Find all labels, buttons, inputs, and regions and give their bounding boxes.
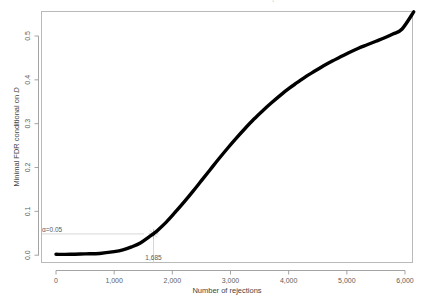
y-axis-title: Minimal FDR conditional on D [12,87,21,187]
x-tick-label: 0 [54,277,58,284]
alpha-guide-group [42,229,159,263]
y-tick-label: 0.4 [24,75,31,85]
y-axis-title-plain: Minimal FDR conditional on [12,93,21,187]
fdr-curve [56,12,414,254]
y-axis-ticks: 0.00.10.20.30.40.5 [24,31,39,260]
x-tick-label: 4,000 [280,277,298,284]
alpha-annotation-label: α=0.05 [42,226,63,233]
x-tick-label: 2,000 [164,277,182,284]
y-axis: 0.00.10.20.30.40.5 [24,31,39,260]
x-tick-label: 3,000 [222,277,240,284]
x-tick-label: 6,000 [396,277,414,284]
y-tick-label: 0.3 [24,119,31,129]
y-tick-label: 0.1 [24,206,31,216]
y-tick-label: 0.0 [24,250,31,260]
x-tick-label: 5,000 [338,277,356,284]
y-axis-title-italic: D [12,87,21,93]
y-tick-label: 0.2 [24,163,31,173]
figure-container: Minimal FDR conditional on D vs number o… [0,0,427,305]
x-axis: 01,0002,0003,0004,0005,0006,000 [54,271,414,285]
threshold-annotation-label: 1,685 [145,254,162,261]
chart-plot-area: 0.00.10.20.30.40.5 01,0002,0003,0004,000… [0,0,427,305]
x-axis-ticks: 01,0002,0003,0004,0005,0006,000 [54,271,414,285]
x-tick-label: 1,000 [105,277,123,284]
x-axis-title: Number of rejections [192,286,261,295]
y-tick-label: 0.5 [24,31,31,41]
